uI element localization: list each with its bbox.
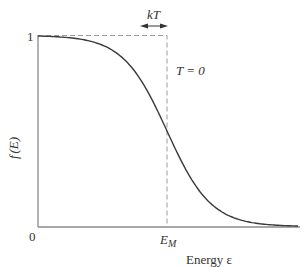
x-axis-label: Energy ε xyxy=(186,252,233,267)
t0-label: T = 0 xyxy=(176,63,205,78)
em-label: EM xyxy=(159,232,177,249)
kt-arrow xyxy=(140,24,168,29)
fermi-dirac-diagram: kT T = 0 1 0 f(E) EM Energy ε xyxy=(0,0,306,267)
kt-label: kT xyxy=(147,7,161,22)
y-axis-label: f(E) xyxy=(6,137,21,159)
origin-label: 0 xyxy=(29,229,36,244)
fermi-dirac-curve xyxy=(38,36,298,226)
y-tick-one: 1 xyxy=(27,29,34,44)
t0-step-dashed xyxy=(38,36,167,228)
svg-text:f(E): f(E) xyxy=(6,137,21,159)
